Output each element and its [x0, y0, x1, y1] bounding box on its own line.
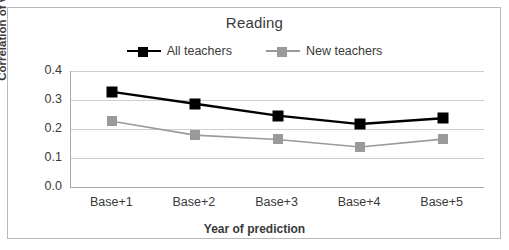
legend-square-marker-icon — [138, 47, 148, 57]
y-axis-tick-label: 0.2 — [28, 121, 62, 135]
legend-swatch-all-teachers — [127, 44, 161, 58]
x-axis-tick-label: Base+3 — [255, 195, 298, 209]
legend-square-marker-icon — [277, 47, 287, 57]
x-axis-tick-label: Base+4 — [338, 195, 381, 209]
y-axis-tick-label: 0.4 — [28, 63, 62, 77]
data-point-marker[interactable] — [355, 119, 366, 130]
legend-item-all-teachers[interactable]: All teachers — [127, 44, 232, 58]
legend-item-new-teachers[interactable]: New teachers — [266, 44, 382, 58]
x-axis-title: Year of prediction — [0, 222, 509, 236]
data-point-marker[interactable] — [437, 113, 448, 124]
y-axis-tick-label: 0.1 — [28, 150, 62, 164]
data-point-marker[interactable] — [438, 134, 448, 144]
x-axis-tick-label: Base+5 — [420, 195, 463, 209]
data-point-marker[interactable] — [189, 98, 200, 109]
data-point-marker[interactable] — [107, 86, 118, 97]
y-axis-tick-label: 0.0 — [28, 179, 62, 193]
y-axis-tick-label: 0.3 — [28, 92, 62, 106]
data-point-marker[interactable] — [272, 110, 283, 121]
data-point-marker[interactable] — [355, 142, 365, 152]
y-axis-title: Correlation of value-added — [0, 0, 8, 88]
data-point-marker[interactable] — [273, 134, 283, 144]
series-lines — [71, 71, 484, 187]
legend-label-all-teachers: All teachers — [167, 44, 232, 58]
x-axis-tick-label: Base+2 — [173, 195, 216, 209]
chart-title: Reading — [0, 14, 509, 31]
legend-swatch-new-teachers — [266, 44, 300, 58]
data-point-marker[interactable] — [107, 116, 117, 126]
data-point-marker[interactable] — [190, 130, 200, 140]
legend-label-new-teachers: New teachers — [306, 44, 382, 58]
x-axis-tick-label: Base+1 — [90, 195, 133, 209]
chart-legend: All teachers New teachers — [0, 44, 509, 58]
plot-area — [70, 71, 484, 188]
chart-figure: Reading All teachers New teachers Correl… — [0, 0, 509, 250]
